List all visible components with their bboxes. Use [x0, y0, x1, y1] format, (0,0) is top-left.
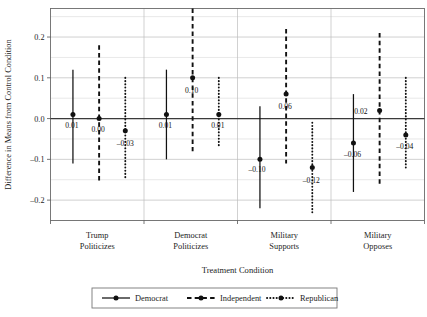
datapoint-republican-3 — [403, 132, 408, 137]
value-label-democrat-1: 0.01 — [159, 121, 172, 130]
value-label-independent-2: 0.06 — [278, 102, 291, 111]
x-category-label-3-line0: Military — [364, 231, 392, 240]
legend-label-republican: Republican — [300, 294, 339, 303]
value-label-republican-2: –0.12 — [302, 176, 320, 185]
value-label-independent-3: 0.02 — [354, 107, 367, 116]
datapoint-republican-0 — [123, 128, 128, 133]
value-label-democrat-2: –0.10 — [247, 165, 265, 174]
value-label-democrat-0: 0.01 — [65, 121, 78, 130]
x-category-label-3-line1: Opposes — [363, 242, 392, 251]
datapoint-republican-1 — [216, 112, 221, 117]
datapoint-democrat-3 — [351, 141, 356, 146]
value-label-independent-0: 0.00 — [91, 125, 104, 134]
x-category-label-0-line0: Trump — [86, 231, 109, 240]
y-tick-label-2: 0.0 — [34, 115, 44, 124]
chart-figure: 0.20.10.0–0.1–0.20.010.01–0.10–0.060.000… — [0, 0, 427, 317]
chart-svg: 0.20.10.0–0.1–0.20.010.01–0.10–0.060.000… — [0, 0, 427, 317]
value-label-republican-1: 0.01 — [211, 121, 224, 130]
x-category-label-1-line0: Democrat — [174, 231, 208, 240]
y-axis-title: Difference in Means from Control Conditi… — [4, 39, 13, 190]
datapoint-independent-2 — [284, 92, 289, 97]
x-category-label-0-line1: Politicizes — [80, 242, 115, 251]
datapoint-independent-1 — [190, 75, 195, 80]
x-axis-title: Treatment Condition — [202, 265, 274, 275]
datapoint-independent-0 — [97, 116, 102, 121]
datapoint-democrat-0 — [70, 112, 75, 117]
legend-marker-republican — [279, 296, 284, 301]
legend-marker-democrat — [114, 296, 119, 301]
x-category-label-1-line1: Politicizes — [173, 242, 208, 251]
y-tick-label-4: –0.2 — [29, 196, 44, 205]
datapoint-independent-3 — [377, 108, 382, 113]
datapoint-democrat-2 — [257, 157, 262, 162]
value-label-democrat-3: –0.06 — [343, 150, 361, 159]
y-tick-label-0: 0.2 — [34, 33, 44, 42]
x-category-label-2-line1: Supports — [269, 242, 299, 251]
datapoint-democrat-1 — [164, 112, 169, 117]
legend-marker-independent — [199, 296, 204, 301]
y-tick-label-1: 0.1 — [34, 74, 44, 83]
datapoint-republican-2 — [310, 165, 315, 170]
legend: DemocratIndependentRepublican — [92, 288, 339, 308]
value-label-republican-0: –0.03 — [116, 139, 134, 148]
value-label-independent-1: 0.10 — [185, 86, 198, 95]
y-tick-label-3: –0.1 — [29, 155, 44, 164]
value-label-republican-3: –0.04 — [395, 142, 413, 151]
legend-label-democrat: Democrat — [135, 294, 169, 303]
legend-label-independent: Independent — [220, 294, 262, 303]
x-category-label-2-line0: Military — [271, 231, 299, 240]
